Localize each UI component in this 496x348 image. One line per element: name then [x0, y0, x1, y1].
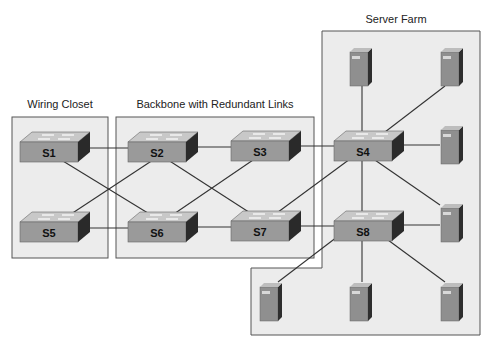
- switch-label: S3: [253, 146, 266, 158]
- server-icon[interactable]: [441, 48, 463, 86]
- title-wiring-closet: Wiring Closet: [27, 98, 92, 110]
- switch-s8[interactable]: S8: [334, 211, 404, 241]
- switch-label: S5: [42, 227, 55, 239]
- switch-label: S8: [356, 226, 369, 238]
- server-icon[interactable]: [350, 283, 372, 321]
- switch-s1[interactable]: S1: [20, 132, 90, 162]
- switch-s2[interactable]: S2: [128, 132, 198, 162]
- server-icon[interactable]: [441, 283, 463, 321]
- switch-label: S7: [253, 226, 266, 238]
- server-icon[interactable]: [441, 204, 463, 242]
- switch-label: S1: [42, 147, 55, 159]
- switch-s7[interactable]: S7: [231, 211, 301, 241]
- title-backbone: Backbone with Redundant Links: [136, 98, 294, 110]
- switch-label: S4: [356, 146, 370, 158]
- server-icon[interactable]: [441, 126, 463, 164]
- switch-s5[interactable]: S5: [20, 212, 90, 242]
- switch-s4[interactable]: S4: [334, 131, 404, 161]
- switch-label: S2: [150, 147, 163, 159]
- switch-s3[interactable]: S3: [231, 131, 301, 161]
- server-icon[interactable]: [350, 48, 372, 86]
- title-server-farm: Server Farm: [365, 13, 426, 25]
- server-icon[interactable]: [260, 283, 282, 321]
- switch-s6[interactable]: S6: [128, 212, 198, 242]
- network-diagram: Wiring Closet Backbone with Redundant Li…: [0, 0, 496, 348]
- switch-label: S6: [150, 227, 163, 239]
